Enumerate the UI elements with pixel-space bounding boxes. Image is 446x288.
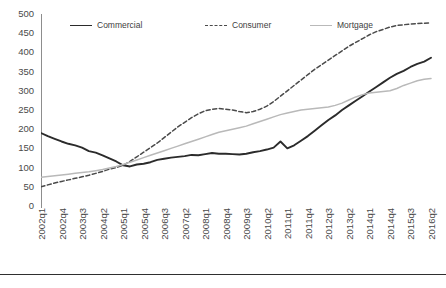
y-axis-tick-label: 100 bbox=[0, 163, 34, 173]
x-axis-tick-label: 2014q4 bbox=[386, 208, 396, 240]
x-axis-tick-label: 2005q1 bbox=[119, 208, 129, 240]
line-chart: Commercial Consumer Mortgage 50045040035… bbox=[0, 0, 446, 288]
x-axis-tick-label: 2014q1 bbox=[365, 208, 375, 240]
bottom-rule bbox=[0, 274, 446, 275]
x-axis-tick-label: 2002q1 bbox=[37, 208, 47, 240]
series-line-commercial bbox=[41, 58, 431, 167]
y-axis-tick-label: 400 bbox=[0, 47, 34, 57]
y-axis-tick-label: 50 bbox=[0, 182, 34, 192]
y-axis-tick-label: 350 bbox=[0, 67, 34, 77]
x-axis-tick-label: 2004q2 bbox=[99, 208, 109, 240]
x-axis-tick-label: 2010q2 bbox=[263, 208, 273, 240]
x-axis-tick-label: 2008q1 bbox=[201, 208, 211, 240]
x-axis-tick-label: 2007q2 bbox=[181, 208, 191, 240]
y-axis-tick-label: 150 bbox=[0, 143, 34, 153]
y-axis-tick-label: 200 bbox=[0, 124, 34, 134]
x-axis-tick-label: 2012q3 bbox=[324, 208, 334, 240]
x-axis-tick-label: 2002q4 bbox=[58, 208, 68, 240]
plot-area bbox=[41, 14, 440, 206]
y-axis-tick-label: 250 bbox=[0, 105, 34, 115]
x-axis-tick-label: 2013q2 bbox=[345, 208, 355, 240]
x-axis-tick-label: 2008q4 bbox=[222, 208, 232, 240]
x-axis-tick-label: 2009q3 bbox=[242, 208, 252, 240]
series-line-consumer bbox=[41, 23, 431, 187]
x-axis-tick-label: 2015q3 bbox=[406, 208, 416, 240]
x-axis-tick-label: 2011q1 bbox=[283, 208, 293, 239]
x-axis-tick-label: 2005q4 bbox=[140, 208, 150, 240]
series-line-mortgage bbox=[41, 79, 431, 178]
x-axis-tick-label: 2006q3 bbox=[160, 208, 170, 240]
y-axis-tick-label: 500 bbox=[0, 9, 34, 19]
x-axis-tick-label: 2011q4 bbox=[304, 208, 314, 239]
y-axis-tick-label: 300 bbox=[0, 86, 34, 96]
x-axis-tick-labels: 2002q12002q42003q32004q22005q12005q42006… bbox=[0, 208, 446, 274]
series-canvas bbox=[41, 14, 440, 206]
y-axis-tick-label: 450 bbox=[0, 28, 34, 38]
x-axis-tick-label: 2016q2 bbox=[427, 208, 437, 240]
x-axis-tick-label: 2003q3 bbox=[78, 208, 88, 240]
